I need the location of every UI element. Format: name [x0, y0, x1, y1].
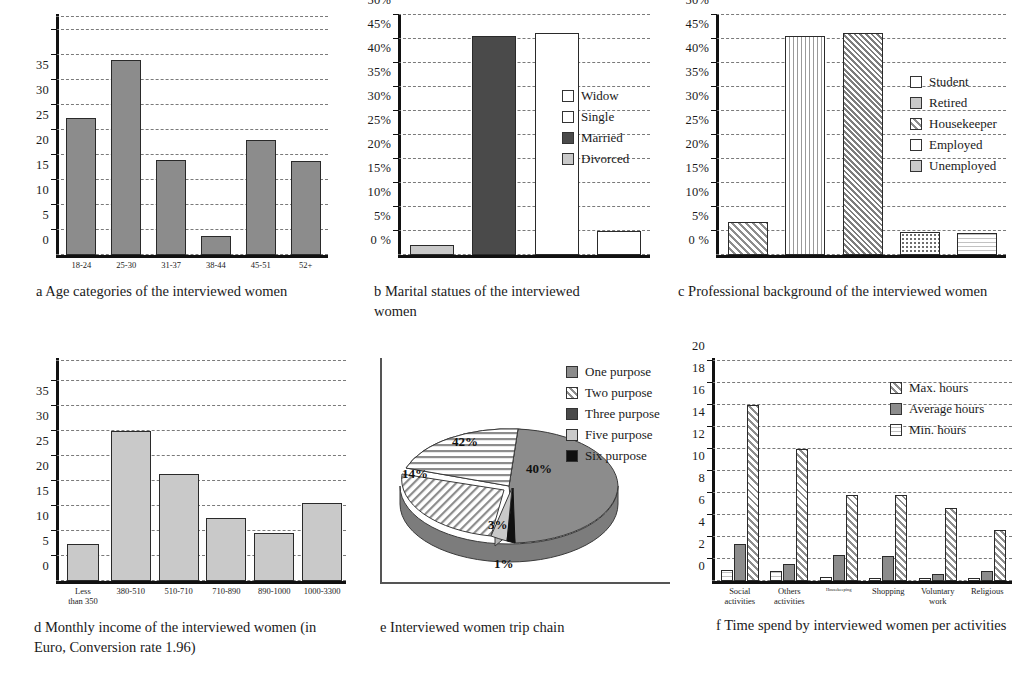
- bar-510-710: [159, 474, 199, 581]
- legend-label: Widow: [581, 88, 619, 104]
- y-tick-a: [51, 229, 57, 230]
- bar-slot: [149, 14, 194, 255]
- y-axis-label-d: 15: [36, 484, 49, 499]
- y-axis-label-f: 10: [692, 449, 705, 464]
- x-label: Voluntary work: [913, 584, 963, 607]
- caption-d: d Monthly income of the interviewed wome…: [34, 618, 344, 657]
- pie-data-label-three-purpose: 3%: [488, 517, 508, 533]
- bar-group-housekeeping: [814, 358, 864, 581]
- legend-label: Max. hours: [909, 380, 968, 396]
- bar-min-hours: [770, 571, 782, 581]
- legend-item-widow[interactable]: Widow: [562, 88, 629, 104]
- legend-item-employed[interactable]: Employed: [910, 137, 997, 153]
- y-tick-d: [51, 555, 57, 556]
- x-label: 52+: [283, 258, 328, 271]
- y-axis-label-b: 25%: [367, 113, 391, 128]
- bar-student: [728, 222, 768, 255]
- legend-label: Five purpose: [585, 427, 653, 443]
- y-tick-b: [393, 158, 399, 159]
- y-axis-label-d: 25: [36, 434, 49, 449]
- bar-slot: [202, 358, 250, 581]
- y-tick-c: [711, 230, 717, 231]
- y-axis-label-d: 10: [36, 509, 49, 524]
- legend-item-one-purpose[interactable]: One purpose: [566, 364, 660, 380]
- legend-item-retired[interactable]: Retired: [910, 95, 997, 111]
- panel-a-age-categories: 0 5 10 15 20 25 30 35 18-24 25-30 31-37 …: [28, 14, 348, 302]
- y-tick-f: [707, 426, 713, 427]
- legend-swatch-three-purpose-icon: [566, 408, 578, 420]
- y-tick-c: [711, 158, 717, 159]
- legend-item-two-purpose[interactable]: Two purpose: [566, 385, 660, 401]
- bar-slot: [719, 14, 776, 255]
- y-axis-label-a: 25: [36, 108, 49, 123]
- y-axis-label-f: 8: [699, 471, 705, 486]
- legend-item-single[interactable]: Single: [562, 109, 629, 125]
- x-label: Others activities: [765, 584, 815, 607]
- legend-item-max-hours[interactable]: Max. hours: [890, 380, 984, 396]
- legend-item-six-purpose[interactable]: Six purpose: [566, 448, 660, 464]
- legend-item-min-hours[interactable]: Min. hours: [890, 422, 984, 438]
- bar-unemployed: [957, 233, 997, 255]
- chart-a-bars: [59, 14, 328, 255]
- legend-swatch-widow-icon: [562, 90, 574, 102]
- chart-a-plot-area: 0 5 10 15 20 25 30 35 18-24 25-30 31-37 …: [56, 14, 328, 258]
- y-axis-label-a: 35: [36, 58, 49, 73]
- y-axis-label-d: 30: [36, 409, 49, 424]
- y-tick-a: [51, 54, 57, 55]
- pie-data-label-one-purpose: 40%: [526, 461, 552, 477]
- legend-item-average-hours[interactable]: Average hours: [890, 401, 984, 417]
- y-tick-d: [51, 455, 57, 456]
- y-tick-b: [393, 206, 399, 207]
- y-tick-f: [707, 536, 713, 537]
- y-tick-a: [51, 79, 57, 80]
- y-axis-label-b: 0 %: [371, 233, 391, 248]
- x-label: 38-44: [193, 258, 238, 271]
- y-tick-c: [711, 206, 717, 207]
- y-tick-f: [707, 514, 713, 515]
- bar-average-hours: [981, 571, 993, 581]
- legend-item-divorced[interactable]: Divorced: [562, 151, 629, 167]
- y-axis-label-c: 30%: [685, 89, 709, 104]
- chart-f-x-labels: Social activities Others activities Hous…: [715, 584, 1012, 607]
- legend-item-married[interactable]: Married: [562, 130, 629, 146]
- y-axis-label-f: 16: [692, 383, 705, 398]
- y-axis-label-a: 5: [43, 208, 49, 223]
- x-axis-line-e: [380, 582, 670, 584]
- legend-item-housekeeper[interactable]: Housekeeper: [910, 116, 997, 132]
- legend-label: Unemployed: [929, 158, 996, 174]
- legend-item-five-purpose[interactable]: Five purpose: [566, 427, 660, 443]
- legend-item-student[interactable]: Student: [910, 74, 997, 90]
- y-tick-c: [711, 134, 717, 135]
- y-tick-c: [711, 110, 717, 111]
- legend-item-three-purpose[interactable]: Three purpose: [566, 406, 660, 422]
- caption-b: b Marital statues of the interviewed wom…: [374, 282, 624, 321]
- bar-max-hours: [747, 405, 759, 581]
- y-tick-d: [51, 380, 57, 381]
- y-axis-label-d: 5: [43, 534, 49, 549]
- bar-average-hours: [734, 544, 746, 581]
- bar-slot: [776, 14, 833, 255]
- bar-890-1000: [254, 533, 294, 581]
- chart-b-legend: Widow Single Married Divorced: [562, 88, 629, 172]
- y-axis-label-b: 45%: [367, 17, 391, 32]
- x-label: 31-37: [149, 258, 194, 271]
- y-axis-label-f: 2: [699, 537, 705, 552]
- y-axis-label-c: 35%: [685, 65, 709, 80]
- legend-label: Two purpose: [585, 385, 652, 401]
- y-tick-a: [51, 29, 57, 30]
- y-tick-c: [711, 86, 717, 87]
- y-tick-f: [707, 382, 713, 383]
- legend-item-unemployed[interactable]: Unemployed: [910, 158, 997, 174]
- y-axis-label-b: 35%: [367, 65, 391, 80]
- bar-average-hours: [932, 574, 944, 581]
- x-label: Less than 350: [59, 584, 107, 607]
- y-tick-a: [51, 204, 57, 205]
- legend-label: Average hours: [909, 401, 984, 417]
- chart-d-plot-area: 0 5 10 15 20 25 30 35 Less than 350 380-…: [56, 358, 346, 584]
- bar-slot: [238, 14, 283, 255]
- legend-swatch-min-hours-icon: [890, 424, 902, 436]
- bar-52-plus: [291, 161, 321, 255]
- y-axis-label-f: 0: [699, 559, 705, 574]
- chart-e-legend: One purpose Two purpose Three purpose Fi…: [566, 364, 660, 469]
- bar-min-hours: [968, 578, 980, 581]
